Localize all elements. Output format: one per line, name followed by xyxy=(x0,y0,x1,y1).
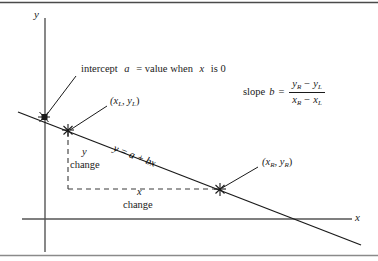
slope-numerator: yR−yL xyxy=(289,78,324,93)
right-point-label: (xR, yR) xyxy=(262,157,292,169)
left-point-marker xyxy=(62,124,74,137)
right-point-marker xyxy=(214,183,226,196)
x-change-word-label: change xyxy=(123,200,153,211)
slope-formula: slopeb= yR−yL xR−xL xyxy=(243,78,325,107)
left-point-leader-line xyxy=(70,106,107,130)
x-axis-label: x xyxy=(355,212,360,223)
intercept-annotation-post: = value when xyxy=(132,63,193,74)
slope-num-minus: − xyxy=(301,78,313,89)
intercept-annotation-end: is 0 xyxy=(207,63,226,74)
slope-den-xl-sub: L xyxy=(318,99,322,107)
right-point-leader-line xyxy=(222,167,258,188)
slope-num-yl-sub: L xyxy=(318,83,322,91)
intercept-annotation: intercept a = value when x is 0 xyxy=(81,64,226,75)
slope-den-minus: − xyxy=(301,94,313,105)
right-point-label-open: (x xyxy=(262,156,270,167)
right-point-label-mid: , y xyxy=(274,156,284,167)
regression-line-figure: y x intercept a = value when x is 0 (xL,… xyxy=(0,0,378,261)
intercept-annotation-pre: intercept xyxy=(81,63,118,74)
left-point-label-close: ) xyxy=(136,95,140,106)
slope-label: slope xyxy=(243,86,265,97)
intercept-symbol: a xyxy=(120,63,129,74)
y-change-variable-label: y xyxy=(82,147,87,158)
slope-equals: = xyxy=(274,86,284,97)
figure-canvas xyxy=(0,0,378,261)
intercept-annotation-var: x xyxy=(196,63,205,74)
right-point-label-close: ) xyxy=(289,156,293,167)
left-point-label-open: (x xyxy=(110,95,118,106)
intercept-leader-line xyxy=(47,76,77,115)
slope-denominator: xR−xL xyxy=(289,93,324,107)
y-axis-label: y xyxy=(34,9,39,20)
x-change-variable-label: x xyxy=(137,187,142,198)
slope-fraction: yR−yL xR−xL xyxy=(289,78,324,107)
left-point-label: (xL, yL) xyxy=(110,96,139,108)
left-point-label-mid: , y xyxy=(122,95,132,106)
y-change-word-label: change xyxy=(70,160,100,171)
